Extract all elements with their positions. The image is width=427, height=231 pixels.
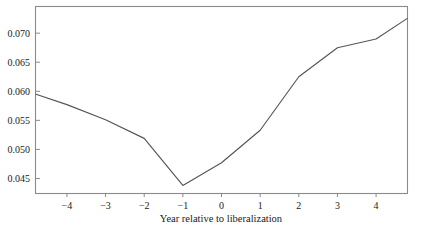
x-tick-label: −2: [139, 200, 150, 211]
x-tick-label: 3: [335, 200, 340, 211]
x-tick-label: 4: [374, 200, 379, 211]
x-tick-label: 0: [219, 200, 224, 211]
data-line-series-1: [36, 19, 407, 186]
y-axis-ticks: [36, 33, 40, 178]
x-tick-label: −4: [62, 200, 73, 211]
y-tick-label: 0.070: [8, 28, 31, 39]
plot-frame-rect: [36, 7, 408, 194]
y-axis-tick-labels: 0.0450.0500.0550.0600.0650.070: [8, 28, 31, 184]
x-axis-tick-labels: −4−3−2−101234: [62, 200, 379, 211]
y-tick-label: 0.055: [8, 115, 31, 126]
y-tick-label: 0.045: [8, 173, 31, 184]
chart-figure: 0.0450.0500.0550.0600.0650.070 −4−3−2−10…: [0, 0, 427, 231]
x-tick-label: −1: [178, 200, 189, 211]
x-tick-label: 2: [296, 200, 301, 211]
line-chart-canvas: 0.0450.0500.0550.0600.0650.070 −4−3−2−10…: [0, 0, 427, 231]
x-tick-label: 1: [258, 200, 263, 211]
x-axis-label: Year relative to liberalization: [160, 213, 283, 224]
y-tick-label: 0.065: [8, 57, 31, 68]
x-tick-label: −3: [100, 200, 111, 211]
y-tick-label: 0.060: [8, 86, 31, 97]
plot-frame: [36, 7, 408, 194]
y-tick-label: 0.050: [8, 144, 31, 155]
data-series-group: [36, 19, 407, 186]
